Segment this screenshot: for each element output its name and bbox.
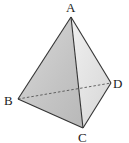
vertex-label-c: C: [78, 130, 87, 143]
vertex-label-b: B: [4, 93, 13, 108]
tetrahedron-svg: A B C D: [0, 0, 129, 143]
vertex-label-a: A: [66, 0, 76, 15]
tetrahedron-diagram: A B C D: [0, 0, 129, 143]
vertex-label-d: D: [113, 76, 122, 91]
